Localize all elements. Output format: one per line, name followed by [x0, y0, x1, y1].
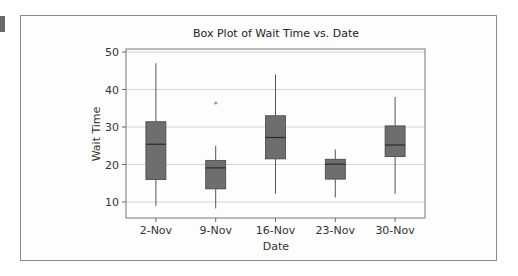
y-axis-label: Wait Time [90, 106, 103, 161]
x-tick-label: 9-Nov [199, 224, 232, 237]
box-30-Nov [385, 126, 405, 157]
x-axis-label: Date [263, 240, 290, 253]
y-tick-label: 30 [105, 121, 119, 134]
y-tick-label: 20 [105, 159, 119, 172]
box-23-Nov [325, 159, 345, 179]
outlier-marker: * [213, 100, 218, 110]
box-2-Nov [146, 122, 166, 180]
box-plot-chart: Box Plot of Wait Time vs. Date 102030405… [0, 0, 518, 276]
x-tick-label: 2-Nov [140, 224, 173, 237]
x-tick-label: 23-Nov [316, 224, 356, 237]
y-tick-label: 50 [105, 46, 119, 59]
y-tick-label: 10 [105, 196, 119, 209]
y-tick-label: 40 [105, 84, 119, 97]
x-tick-label: 30-Nov [375, 224, 415, 237]
chart-title: Box Plot of Wait Time vs. Date [193, 27, 359, 40]
plot-area: 10203040502-Nov*9-Nov16-Nov23-Nov30-Nov [105, 46, 425, 237]
x-tick-label: 16-Nov [256, 224, 296, 237]
box-9-Nov [206, 160, 226, 189]
